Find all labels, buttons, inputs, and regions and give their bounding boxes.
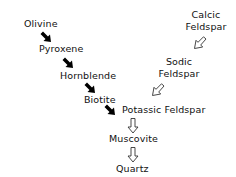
- mineral-muscovite: Muscovite: [109, 133, 158, 144]
- mineral-quartz: Quartz: [116, 163, 149, 174]
- solid-arrow-hornblende-to-biotite-icon: [84, 82, 96, 94]
- hollow-arrow-sodic-to-potassic-icon: [151, 83, 165, 97]
- mineral-olivine: Olivine: [24, 18, 58, 29]
- solid-arrow-pyroxene-to-hornblende-icon: [62, 57, 74, 69]
- mineral-sodic-feldspar-line2: Feldspar: [158, 68, 200, 79]
- mineral-hornblende: Hornblende: [60, 70, 116, 81]
- mineral-sodic-feldspar-line1: Sodic: [158, 56, 200, 67]
- solid-arrow-olivine-to-pyroxene-icon: [40, 31, 52, 43]
- mineral-calcic-feldspar-line1: Calcic: [185, 9, 227, 20]
- solid-arrow-biotite-to-potassic-icon: [104, 104, 116, 116]
- mineral-calcic-feldspar-line2: Feldspar: [185, 21, 227, 32]
- hollow-arrow-muscovite-to-quartz-icon: [127, 147, 139, 163]
- hollow-arrow-potassic-to-muscovite-icon: [127, 118, 139, 134]
- hollow-arrow-calcic-to-sodic-icon: [193, 36, 207, 50]
- mineral-potassic-feldspar: Potassic Feldspar: [122, 104, 205, 115]
- mineral-pyroxene: Pyroxene: [39, 43, 83, 54]
